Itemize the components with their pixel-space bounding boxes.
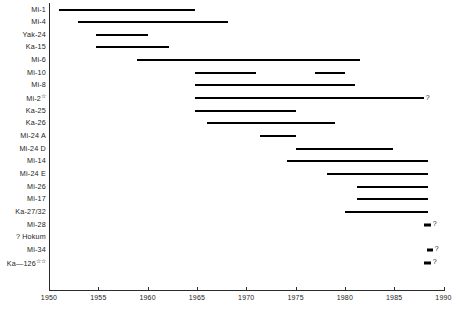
timeline-bar	[137, 59, 360, 61]
star-icon: ☆	[41, 93, 46, 99]
row-label-mi-28: Mi-28	[27, 221, 46, 228]
question-mark-prefix: ?	[16, 233, 20, 242]
x-tick-mark	[444, 287, 445, 291]
y-axis-line	[49, 3, 50, 290]
uncertain-end-marker: ?	[433, 220, 437, 227]
timeline-bar	[260, 135, 296, 137]
x-tick-mark	[246, 287, 247, 291]
row-label-text: Mi-14	[27, 157, 46, 166]
row-label-yak-24: Yak-24	[23, 31, 46, 38]
timeline-bar	[207, 122, 335, 124]
timeline-bar	[195, 72, 256, 74]
row-label-mi-34: Mi-34	[27, 246, 46, 253]
row-label-text: Mi-28	[27, 220, 46, 229]
timeline-bar	[427, 248, 433, 251]
x-tick-mark	[345, 287, 346, 291]
timeline-bar	[195, 97, 424, 99]
row-label-text: Mi-2	[26, 94, 41, 103]
row-label-mi-2: Mi-2☆	[26, 94, 46, 103]
x-tick-label: 1965	[189, 294, 205, 301]
timeline-bar	[327, 173, 428, 175]
row-label-mi-4: Mi-4	[31, 19, 46, 26]
timeline-bar	[195, 110, 296, 112]
x-tick-mark	[394, 287, 395, 291]
row-label-text: Yak-24	[23, 30, 46, 39]
timeline-bar	[424, 261, 431, 264]
row-label-text: Ka-27/32	[15, 207, 46, 216]
row-label-text: Mi-24 E	[20, 169, 46, 178]
row-label-text: Ka—126	[7, 259, 36, 268]
double-star-icon: ☆☆	[36, 257, 46, 263]
x-tick-label: 1950	[41, 294, 57, 301]
row-label-text: Mi-4	[31, 18, 46, 27]
row-label-text: Mi-26	[27, 182, 46, 191]
row-label-text: Ka-15	[26, 43, 46, 52]
row-label-text: Ka-26	[26, 119, 46, 128]
row-label-text: Mi-10	[27, 68, 46, 77]
x-tick-label: 1970	[238, 294, 254, 301]
uncertain-end-marker: ?	[433, 258, 437, 265]
timeline-bar	[424, 223, 431, 226]
row-label-mi-1: Mi-1	[31, 6, 46, 13]
row-label-text: Mi-17	[27, 195, 46, 204]
timeline-bar	[357, 198, 428, 200]
row-label-hokum: ?Hokum	[16, 234, 46, 241]
row-label-ka-15: Ka-15	[26, 44, 46, 51]
row-label-text: Mi-24 A	[20, 131, 46, 140]
timeline-bar	[357, 186, 428, 188]
timeline-bar	[78, 21, 228, 23]
row-label-ka-25: Ka-25	[26, 107, 46, 114]
timeline-bar	[96, 34, 147, 36]
row-label-mi-8: Mi-8	[31, 82, 46, 89]
row-label-mi-24-e: Mi-24 E	[20, 170, 46, 177]
x-tick-label: 1990	[435, 294, 451, 301]
timeline-bar	[345, 211, 428, 213]
x-tick-mark	[49, 287, 50, 291]
row-label-mi-10: Mi-10	[27, 69, 46, 76]
row-label-column: Mi-1Mi-4Yak-24Ka-15Mi-6Mi-10Mi-8Mi-2☆Ka-…	[0, 0, 46, 285]
x-tick-mark	[197, 287, 198, 291]
timeline-bar	[296, 148, 394, 150]
x-tick-label: 1955	[90, 294, 106, 301]
row-label-text: Mi-1	[31, 5, 46, 14]
x-tick-label: 1960	[139, 294, 155, 301]
uncertain-end-marker: ?	[426, 93, 430, 100]
row-label-ka-26: Ka-26	[26, 120, 46, 127]
row-label-ka-27-32: Ka-27/32	[15, 208, 46, 215]
timeline-bar	[96, 46, 169, 48]
timeline-bar	[195, 84, 355, 86]
timeline-bar	[315, 72, 345, 74]
row-label-text: Ka-25	[26, 106, 46, 115]
x-tick-label: 1975	[287, 294, 303, 301]
row-label-mi-24-a: Mi-24 A	[20, 132, 46, 139]
row-label-mi-26: Mi-26	[27, 183, 46, 190]
row-label-ka-126: Ka—126☆☆	[7, 258, 46, 267]
timeline-bar	[287, 160, 428, 162]
row-label-mi-6: Mi-6	[31, 56, 46, 63]
row-label-mi-14: Mi-14	[27, 158, 46, 165]
row-label-text: Hokum	[22, 233, 46, 242]
row-label-text: Mi-8	[31, 81, 46, 90]
row-label-mi-17: Mi-17	[27, 196, 46, 203]
row-label-text: Mi-34	[27, 245, 46, 254]
row-label-mi-24-d: Mi-24 D	[19, 145, 46, 152]
timeline-bar	[59, 9, 195, 11]
x-tick-label: 1985	[386, 294, 402, 301]
x-tick-label: 1980	[337, 294, 353, 301]
x-tick-mark	[148, 287, 149, 291]
uncertain-end-marker: ?	[435, 245, 439, 252]
x-tick-mark	[296, 287, 297, 291]
x-tick-mark	[98, 287, 99, 291]
row-label-text: Mi-6	[31, 55, 46, 64]
row-label-text: Mi-24 D	[19, 144, 46, 153]
